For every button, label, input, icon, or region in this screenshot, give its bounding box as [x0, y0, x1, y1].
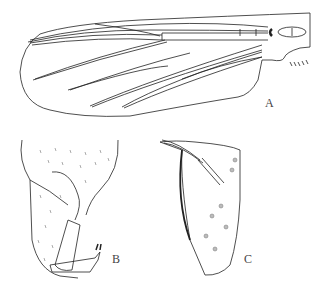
- panel-b-drawing: [21, 140, 118, 278]
- panel-label-b: B: [112, 252, 120, 267]
- panel-label-c: C: [244, 252, 252, 267]
- panel-label-a: A: [265, 96, 274, 111]
- panel-c-drawing: [160, 140, 240, 275]
- figure-canvas: [0, 0, 327, 293]
